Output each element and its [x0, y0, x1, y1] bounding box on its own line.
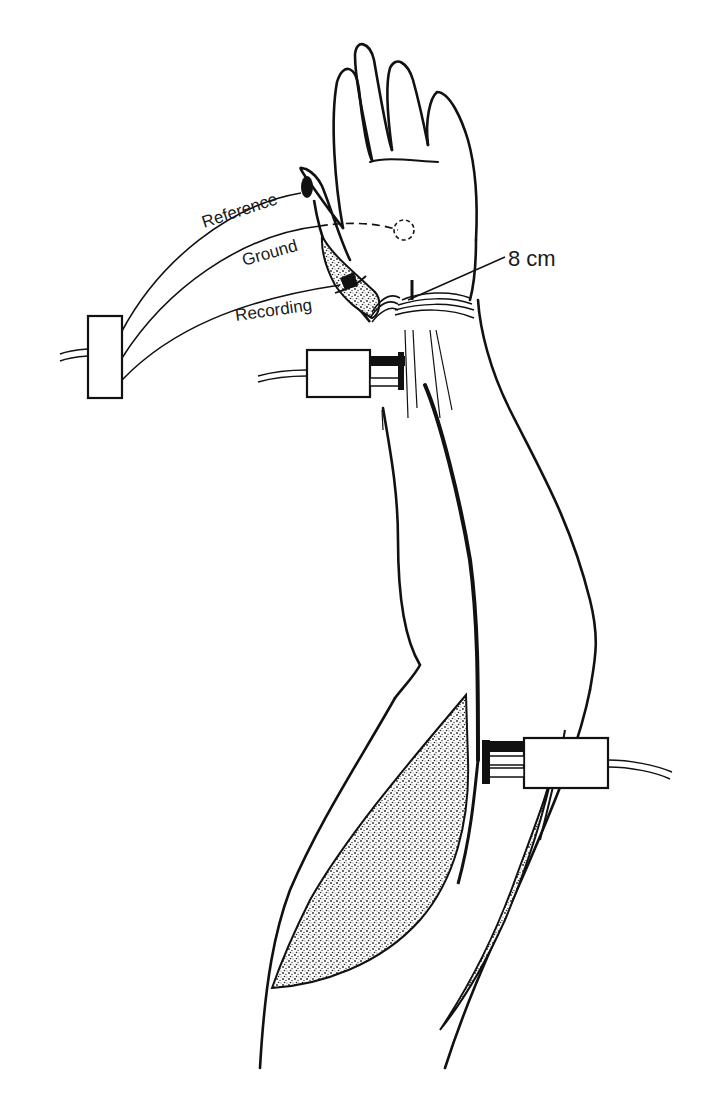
- ulna-line: [425, 385, 478, 760]
- little-finger: [427, 92, 476, 240]
- nerve-conduction-diagram: Reference Ground Recording 8 cm: [0, 0, 714, 1106]
- elbow-stimulator: [482, 738, 672, 788]
- forearm-ulnar-edge: [478, 300, 596, 690]
- reference-electrode: [301, 176, 313, 198]
- wrist-band: [370, 293, 474, 322]
- label-reference: Reference: [199, 189, 279, 231]
- label-recording: Recording: [234, 295, 313, 325]
- thenar-region: [314, 200, 379, 322]
- label-ground: Ground: [240, 236, 300, 270]
- forearm-radial-edge: [383, 408, 420, 698]
- amplifier-cable: [60, 349, 88, 361]
- index-finger: [334, 69, 372, 228]
- label-distance: 8 cm: [508, 246, 556, 271]
- wrist-stimulator: [258, 350, 405, 397]
- ring-finger: [387, 62, 428, 150]
- recording-amplifier-box: [88, 316, 122, 398]
- palm-crease: [370, 159, 438, 162]
